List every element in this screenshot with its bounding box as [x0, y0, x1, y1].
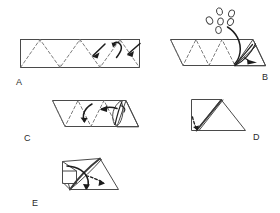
panel-label-c: C — [24, 134, 31, 143]
folding-diagram-figure: A B C D E — [0, 0, 280, 213]
panel-b-group — [171, 7, 266, 65]
panel-label-b: B — [262, 73, 268, 82]
panel-c-group — [53, 101, 139, 127]
panel-e-group — [63, 159, 119, 191]
panel-a-group — [21, 40, 141, 68]
panel-c-strip — [53, 101, 139, 127]
panel-d-group — [192, 100, 246, 131]
bubble-1 — [216, 7, 224, 16]
panel-label-e: E — [32, 199, 38, 208]
figure-canvas — [0, 0, 280, 213]
bubble-5 — [226, 18, 234, 27]
panel-label-a: A — [16, 78, 22, 87]
panel-label-d: D — [253, 133, 260, 142]
bubble-4 — [217, 18, 224, 26]
bubble-6 — [215, 26, 221, 34]
bubble-2 — [228, 9, 236, 18]
panel-a-strip — [21, 40, 140, 68]
bubble-3 — [205, 16, 214, 26]
